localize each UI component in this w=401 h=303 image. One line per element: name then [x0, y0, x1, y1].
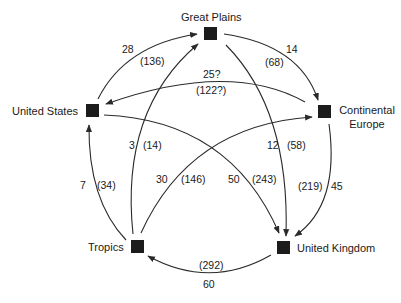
node-label-united-kingdom: United Kingdom	[297, 242, 375, 254]
edge-value-great-plains-europe: 14	[286, 43, 298, 55]
edge-paren-europe-us: (122?)	[196, 84, 226, 96]
edge-paren-us-uk: (243)	[252, 173, 277, 185]
node-label-continental-europe-line1: Continental	[339, 104, 395, 116]
node-united-kingdom	[277, 241, 290, 254]
edge-value-tropics-europe: 30	[156, 173, 168, 185]
edge-value-tropics-us: 7	[80, 179, 86, 191]
edge-paren-tropics-us: (34)	[97, 179, 116, 191]
node-label-continental-europe-line2: Europe	[339, 118, 395, 130]
edge-tropics-to-great-plains	[131, 44, 198, 234]
node-united-states	[86, 104, 99, 117]
edge-value-great-plains-uk: 12	[267, 139, 279, 151]
node-tropics	[131, 240, 144, 253]
edge-paren-uk-tropics: (292)	[199, 259, 224, 271]
edge-paren-great-plains-europe: (68)	[265, 56, 284, 68]
edge-paren-us-great-plains: (136)	[140, 55, 165, 67]
node-label-tropics: Tropics	[88, 241, 124, 253]
flow-diagram	[0, 0, 401, 303]
edge-value-europe-us: 25?	[203, 68, 221, 80]
edge-value-europe-uk: 45	[331, 180, 343, 192]
node-label-great-plains: Great Plains	[181, 11, 242, 23]
edge-value-uk-tropics: 60	[203, 278, 215, 290]
edge-value-us-uk: 50	[228, 173, 240, 185]
node-label-united-states: United States	[12, 105, 78, 117]
edge-value-tropics-great-plains: 3	[129, 139, 135, 151]
edge-paren-europe-uk: (219)	[298, 180, 323, 192]
edge-paren-tropics-europe: (146)	[181, 173, 206, 185]
edge-paren-tropics-great-plains: (14)	[143, 139, 162, 151]
node-great-plains	[204, 27, 217, 40]
node-continental-europe	[318, 105, 331, 118]
edge-value-us-great-plains: 28	[122, 43, 134, 55]
edge-paren-great-plains-uk: (58)	[287, 139, 306, 151]
